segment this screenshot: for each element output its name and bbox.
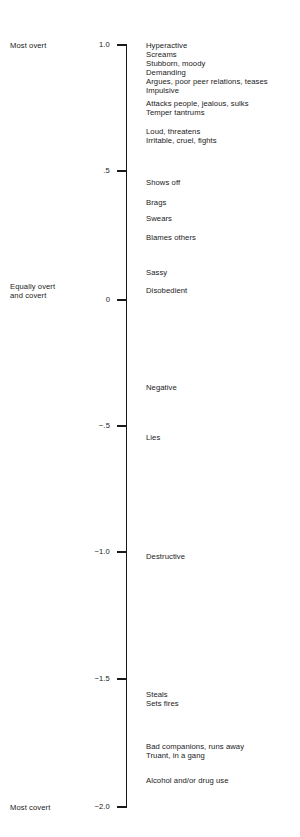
anchor-equally-overt-covert: Equally overt and covert [10, 282, 88, 301]
anchor-most-overt: Most overt [10, 41, 88, 50]
behavior-item-label: Bad companions, runs away [146, 742, 244, 751]
anchor-equally-line-1: Equally overt [10, 282, 88, 291]
behavior-item-label: Loud, threatens [146, 127, 200, 136]
axis-tick-label-text: −.5 [62, 422, 110, 430]
axis-tick-mark [117, 678, 127, 679]
behavior-item-label: Demanding [146, 68, 186, 77]
behavior-item-label: Temper tantrums [146, 108, 205, 117]
behavior-item-label: Sassy [146, 268, 167, 277]
behavior-item-label: Argues, poor peer relations, teases [146, 77, 268, 86]
axis-tick-mark [117, 170, 127, 171]
behavior-item-label: Negative [146, 383, 177, 392]
behavior-item-label: Alcohol and/or drug use [146, 776, 229, 785]
axis-tick-mark [117, 44, 127, 45]
behavior-item-label: Shows off [146, 178, 180, 187]
axis-tick-label: −.5 [60, 422, 110, 430]
behavior-item-label: Steals [146, 690, 168, 699]
behavior-item-label: Hyperactive [146, 41, 187, 50]
behavior-item-label: Destructive [146, 552, 185, 561]
anchor-most-covert: Most covert [10, 803, 88, 812]
axis-tick-label: −1.0 [60, 548, 110, 556]
axis-tick-mark [117, 425, 127, 426]
behavior-item-label: Sets fires [146, 699, 179, 708]
behavior-item-label: Brags [146, 198, 166, 207]
behavior-item-label: Blames others [146, 233, 196, 242]
axis-tick-label: −1.5 [60, 675, 110, 683]
axis-tick-label: .5 [60, 167, 110, 175]
axis-tick-label-text: −1.0 [62, 548, 110, 556]
anchor-equally-line-2: and covert [10, 291, 88, 300]
axis-tick-mark [117, 299, 127, 300]
behavior-item-label: Irritable, cruel, fights [146, 136, 217, 145]
behavior-item-label: Stubborn, moody [146, 59, 205, 68]
behavior-item-label: Swears [146, 214, 172, 223]
behavior-item-label: Attacks people, jealous, sulks [146, 99, 249, 108]
behavior-item-label: Truant, in a gang [146, 751, 205, 760]
axis-tick-label-text: .5 [62, 167, 110, 175]
overt-covert-scale-figure: 1.0.50−.5−1.0−1.5−2.0 Most overt Equally… [0, 0, 300, 837]
behavior-item-label: Screams [146, 50, 177, 59]
behavior-item-label: Disobedient [146, 286, 187, 295]
axis-tick-label-text: −1.5 [62, 675, 110, 683]
behavior-item-label: Lies [146, 433, 160, 442]
axis-tick-mark [117, 551, 127, 552]
axis-tick-mark [117, 806, 127, 807]
behavior-item-label: Impulsive [146, 86, 179, 95]
